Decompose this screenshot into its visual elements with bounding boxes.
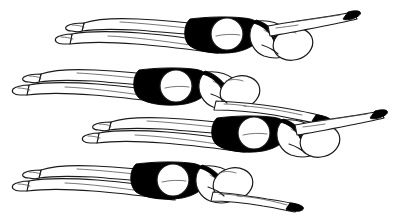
swimmers-illustration xyxy=(0,0,407,217)
swimmers-svg-canvas xyxy=(0,0,407,217)
